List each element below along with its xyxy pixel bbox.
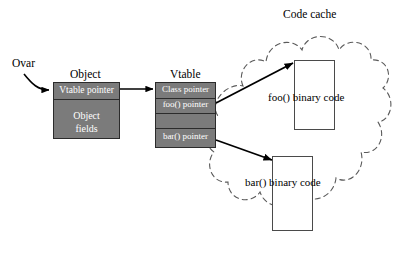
foo-binary-code-label: foo() binary code: [268, 91, 344, 103]
bar-binary-code-label: bar() binary code: [245, 176, 321, 188]
ovar-arrow: [24, 74, 49, 90]
object-row-fields-line1: Object: [54, 110, 119, 123]
object-row-fields-line2: fields: [54, 123, 119, 136]
vtable-row-bar-pointer: bar() pointer: [156, 131, 215, 144]
ovar-label: Ovar: [12, 58, 35, 70]
object-block: Vtable pointer Object fields: [53, 82, 120, 139]
vtable-divider-3: [156, 128, 215, 129]
vtable-caption: Vtable: [170, 68, 201, 80]
bar-pointer-arrow: [216, 140, 272, 160]
diagram-canvas: Code cache Ovar Object Vtable pointer Ob…: [0, 0, 398, 278]
vtable-row-empty: [156, 114, 215, 127]
code-cache-title: Code cache: [283, 8, 336, 20]
bar-binary-code-box: [272, 156, 313, 231]
object-caption: Object: [70, 68, 101, 80]
vtable-row-class-pointer: Class pointer: [156, 84, 215, 97]
vtable-block: Class pointer foo() pointer bar() pointe…: [155, 82, 216, 148]
object-row-divider: [54, 99, 119, 100]
vtable-row-foo-pointer: foo() pointer: [156, 99, 215, 112]
object-row-vtable-pointer: Vtable pointer: [54, 85, 119, 98]
